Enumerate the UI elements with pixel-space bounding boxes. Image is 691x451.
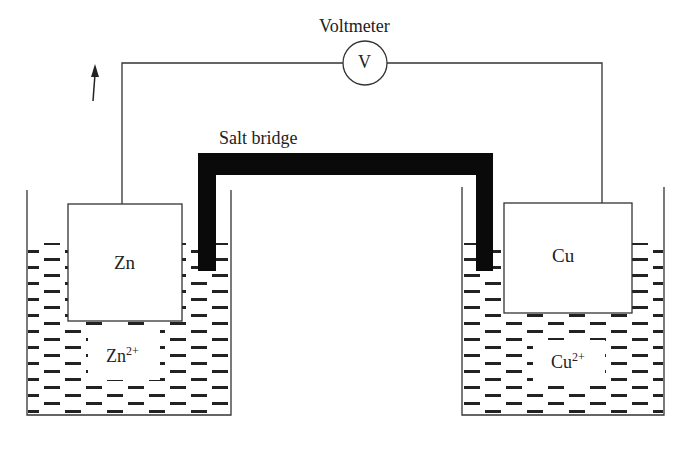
zinc-ion-base: Zn [106, 346, 126, 366]
zinc-ion-label: Zn2+ [102, 342, 143, 369]
salt-bridge-label: Salt bridge [219, 128, 298, 149]
electron-flow-arrow-icon [91, 64, 99, 101]
copper-electrode-label: Cu [552, 245, 574, 267]
copper-ion-base: Cu [551, 352, 572, 372]
salt-bridge [198, 153, 493, 271]
galvanic-cell-diagram [0, 0, 691, 451]
voltmeter-label: Voltmeter [319, 16, 390, 37]
voltmeter-symbol: V [358, 52, 371, 73]
zinc-ion-charge: 2+ [126, 344, 139, 358]
zinc-electrode-label: Zn [114, 252, 135, 274]
copper-ion-label: Cu2+ [547, 348, 589, 375]
copper-ion-charge: 2+ [572, 350, 585, 364]
